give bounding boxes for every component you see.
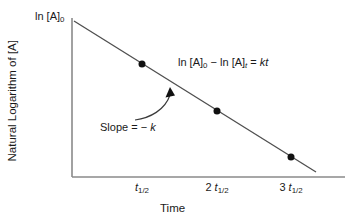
data-point-t-half [139, 61, 146, 68]
x-tick-label-2t-half: 2 t1/2 [205, 182, 228, 193]
y-axis-title: Natural Logarithm of [A] [7, 21, 19, 181]
rate-law-equation-annotation: ln [A]0 − ln [A]t = kt [178, 57, 268, 68]
slope-equals: = [128, 121, 141, 133]
x-axis-title: Time [160, 203, 185, 215]
equation-minus: − [207, 56, 220, 68]
tick-0-subscript: 1/2 [138, 186, 149, 195]
data-point-3t-half [288, 154, 295, 161]
slope-arrow-curve [135, 95, 170, 120]
slope-label: Slope [100, 121, 128, 133]
tick-1-subscript: 1/2 [218, 186, 229, 195]
equation-subscript-zero: 0 [203, 61, 207, 70]
tick-1-prefix: 2 [205, 181, 214, 193]
x-tick-label-3t-half: 3 t1/2 [279, 182, 302, 193]
equation-ln-first: ln [A] [178, 56, 203, 68]
slope-symbol: k [150, 121, 156, 133]
equation-rhs: kt [260, 56, 269, 68]
y-origin-subscript: 0 [60, 15, 64, 24]
x-tick-label-t-half: t1/2 [135, 182, 149, 193]
data-point-2t-half [214, 108, 221, 115]
trend-line [74, 21, 316, 172]
first-order-kinetics-figure: Natural Logarithm of [A] ln [A]0 t1/2 2 … [0, 0, 353, 224]
slope-minus: − [141, 121, 150, 133]
slope-arrow-head [166, 87, 176, 98]
tick-2-prefix: 3 [279, 181, 288, 193]
tick-2-subscript: 1/2 [292, 186, 303, 195]
equation-equals: = [247, 56, 260, 68]
slope-annotation: Slope = − k [100, 122, 156, 133]
y-axis-origin-label: ln [A]0 [35, 11, 64, 22]
equation-subscript-t: t [245, 61, 247, 70]
y-origin-text: ln [A] [35, 10, 60, 22]
equation-ln-second: ln [A] [220, 56, 245, 68]
